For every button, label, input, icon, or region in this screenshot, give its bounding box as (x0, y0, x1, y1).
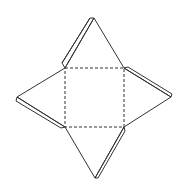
pyramid-net-diagram (0, 0, 176, 192)
face-left-edges (17, 68, 65, 127)
face-right (124, 67, 172, 127)
face-bottom-edges (65, 127, 124, 178)
glue-tab-left (16, 97, 65, 128)
face-top-edges (65, 18, 124, 68)
base-square-fold-lines (65, 68, 124, 127)
face-left (16, 68, 65, 128)
face-top (62, 18, 124, 68)
glue-tab-right (124, 67, 172, 97)
face-right-edges (124, 68, 171, 127)
tab-top-outer (62, 18, 90, 63)
face-bottom (65, 127, 125, 178)
